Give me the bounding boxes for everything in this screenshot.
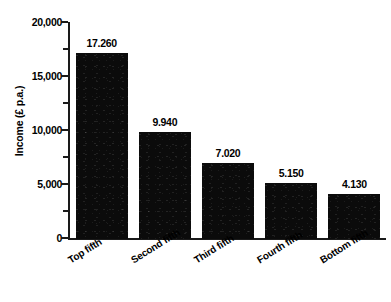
y-axis-tick-label: 10,000 (14, 125, 62, 136)
bar-group: 5.150 (265, 22, 317, 239)
y-axis-tick-label: 0 (14, 233, 62, 244)
bar-value-label: 4.130 (342, 178, 367, 190)
bar-value-label: 7.020 (216, 147, 241, 159)
y-axis-tick-labels: 05,00010,00015,00020,000 (10, 0, 62, 302)
bar-value-label: 5.150 (279, 167, 304, 179)
y-axis-major-tick (61, 129, 68, 131)
y-axis-major-tick (61, 75, 68, 77)
bar-group: 7.020 (202, 22, 254, 239)
y-axis-major-tick (61, 21, 68, 23)
bar (202, 163, 254, 239)
bar-group: 9.940 (139, 22, 191, 239)
y-axis-tick-label: 15,000 (14, 71, 62, 82)
y-axis-major-tick (61, 183, 68, 185)
bar-group: 17.260 (76, 22, 128, 239)
bar-chart: Income (£ p.a.) 05,00010,00015,00020,000… (0, 0, 391, 302)
y-axis-major-tick (61, 237, 68, 239)
x-axis-category-label: Top fifth (66, 236, 104, 265)
plot-area: 17.2609.9407.0205.1504.130 (70, 22, 386, 239)
bar-group: 4.130 (328, 22, 380, 239)
bar (76, 53, 128, 239)
bar (139, 132, 191, 239)
bar-value-label: 9.940 (152, 116, 177, 128)
y-axis-tick-label: 5,000 (14, 179, 62, 190)
bar (265, 183, 317, 239)
y-axis-tick-label: 20,000 (14, 17, 62, 28)
x-axis-category-labels: Top fifthSecond fifthThird fifthFourth f… (70, 240, 386, 302)
bar-value-label: 17.260 (86, 37, 116, 49)
